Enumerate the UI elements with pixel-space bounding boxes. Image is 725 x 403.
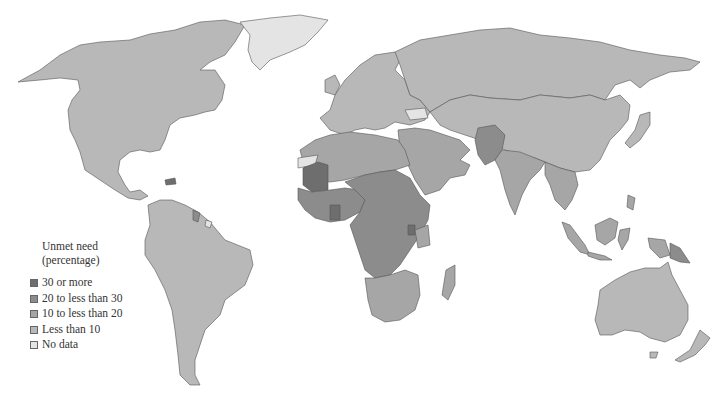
region-new-guinea-west: [648, 238, 670, 258]
legend-swatch: [30, 279, 38, 287]
legend-swatch: [30, 341, 38, 349]
region-madagascar: [442, 265, 455, 300]
legend-item-less-10: Less than 10: [30, 322, 123, 338]
legend-swatch: [30, 310, 38, 318]
region-australia: [595, 262, 688, 342]
legend-item-no-data: No data: [30, 338, 123, 354]
legend-swatch: [30, 295, 38, 303]
legend-title: Unmet need (percentage): [42, 240, 123, 268]
region-philippines: [627, 195, 635, 210]
legend-item-20-30: 20 to less than 30: [30, 291, 123, 307]
legend-label: 10 to less than 20: [42, 307, 123, 321]
legend-item-30-plus: 30 or more: [30, 276, 123, 292]
region-japan: [625, 112, 650, 148]
map-legend: Unmet need (percentage) 30 or more 20 to…: [30, 240, 123, 353]
legend-label: 20 to less than 30: [42, 292, 123, 306]
region-mauritania: [303, 162, 328, 192]
region-india: [495, 150, 545, 215]
region-central-africa: [345, 170, 430, 278]
legend-swatch: [30, 326, 38, 334]
region-caribbean: [165, 178, 176, 185]
legend-label: Less than 10: [42, 323, 100, 337]
legend-label: 30 or more: [42, 276, 92, 290]
region-greenland: [240, 15, 328, 70]
region-sumatra: [562, 222, 590, 255]
region-ghana-togo: [330, 205, 340, 220]
legend-label: No data: [42, 338, 78, 352]
legend-item-10-20: 10 to less than 20: [30, 307, 123, 323]
region-tasmania: [650, 352, 658, 358]
legend-title-line2: (percentage): [42, 254, 123, 268]
region-southern-africa: [365, 270, 420, 322]
region-sulawesi: [618, 228, 630, 250]
region-south-america: [145, 200, 253, 385]
region-java: [588, 252, 612, 260]
region-north-america: [18, 20, 245, 200]
legend-title-line1: Unmet need: [42, 240, 123, 254]
region-borneo: [595, 218, 618, 245]
region-papua-new-guinea: [670, 243, 690, 263]
region-uganda: [408, 225, 415, 235]
